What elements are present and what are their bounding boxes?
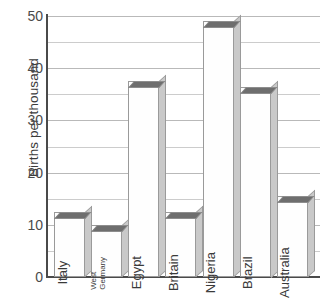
bar-front-face [203, 21, 234, 277]
bar-category-label: Britain [167, 255, 181, 292]
bar-category-label: Nigeria [205, 252, 219, 293]
bar-top-face [91, 225, 128, 232]
y-tick-label: 0 [3, 269, 43, 285]
bar-top-face [277, 196, 314, 203]
bar-top-face [165, 212, 202, 219]
bar-category-label: Australia [279, 248, 293, 298]
bar-category-label: Brazil [242, 257, 256, 290]
bar: Nigeria [203, 21, 234, 277]
y-tick-label: 10 [3, 217, 43, 233]
bar-category-label: WestGermany [88, 257, 106, 290]
y-tick-label: 30 [3, 112, 43, 128]
bar-front-face [128, 81, 159, 277]
y-tick-label: 20 [3, 165, 43, 181]
bar-front-face [240, 87, 271, 278]
bar: Italy [54, 212, 85, 277]
y-tick-label: 50 [3, 8, 43, 24]
bar: Brazil [240, 87, 271, 278]
bar: Egypt [128, 81, 159, 277]
bar: WestGermany [91, 225, 122, 277]
bar: Australia [277, 196, 308, 277]
bar-top-face [54, 212, 91, 219]
bars-layer: ItalyWestGermanyEgyptBritainNigeriaBrazi… [48, 16, 320, 277]
bar: Britain [165, 212, 196, 277]
bar-top-face [240, 87, 277, 94]
bar-category-label: Egypt [130, 256, 144, 289]
y-tick-label: 40 [3, 60, 43, 76]
bar-top-face [203, 21, 240, 28]
bar-side-face [308, 190, 315, 277]
y-axis-tick-labels: 01020304050 [0, 16, 43, 277]
bar-category-label: Italy [56, 261, 70, 285]
